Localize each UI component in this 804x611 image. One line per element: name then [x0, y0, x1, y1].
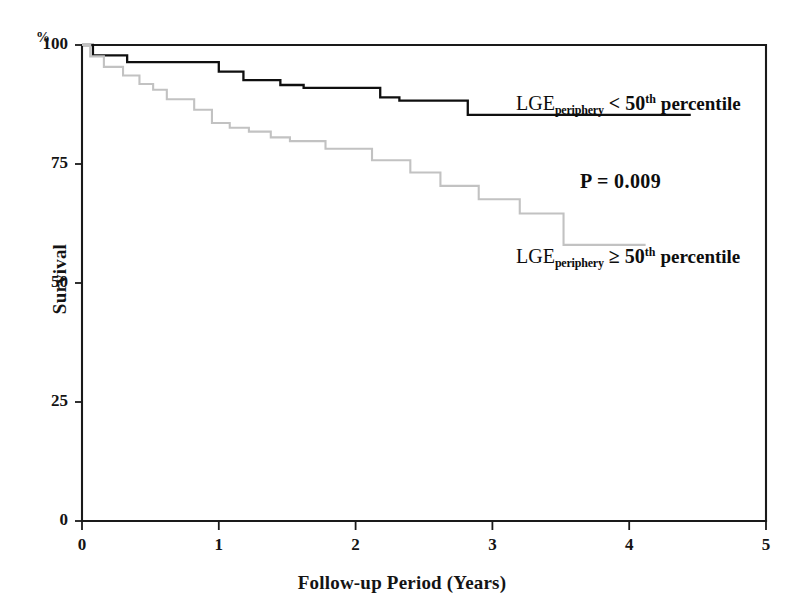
x-axis-title: Follow-up Period (Years) — [0, 572, 804, 594]
y-tick-label: 0 — [20, 510, 68, 530]
survival-figure: % 0255075100 012345 Survival Follow-up P… — [0, 0, 804, 611]
legend-label-lower: LGEperiphery ≥ 50th percentile — [516, 245, 740, 271]
legend-upper-base: LGE — [516, 92, 555, 114]
y-tick-label: 100 — [20, 34, 68, 54]
legend-lower-number: 50 — [625, 245, 645, 267]
legend-upper-number: 50 — [625, 92, 645, 114]
curves-group — [82, 45, 691, 245]
x-tick-label: 4 — [609, 535, 649, 555]
y-axis-title: Survival — [49, 199, 71, 359]
x-tick-label: 2 — [336, 535, 376, 555]
p-value-annotation: P = 0.009 — [580, 170, 661, 193]
legend-lower-comparator-glyph: ≥ — [609, 245, 620, 267]
legend-lower-superscript: th — [645, 245, 656, 259]
y-tick-label: 25 — [20, 391, 68, 411]
legend-upper-tail: percentile — [661, 93, 741, 114]
x-tick-label: 0 — [62, 535, 102, 555]
legend-upper-comparator-glyph: < — [609, 92, 620, 114]
legend-upper-subscript: periphery — [555, 103, 604, 117]
x-tick-label: 1 — [199, 535, 239, 555]
legend-lower-subscript: periphery — [555, 256, 604, 270]
x-tick-label: 3 — [472, 535, 512, 555]
y-tick-label: 75 — [20, 153, 68, 173]
survival-curve-lower — [82, 45, 646, 245]
legend-label-upper: LGEperiphery < 50th percentile — [516, 92, 741, 118]
legend-lower-base: LGE — [516, 245, 555, 267]
legend-lower-tail: percentile — [660, 246, 740, 267]
legend-upper-superscript: th — [645, 92, 656, 106]
x-tick-label: 5 — [746, 535, 786, 555]
